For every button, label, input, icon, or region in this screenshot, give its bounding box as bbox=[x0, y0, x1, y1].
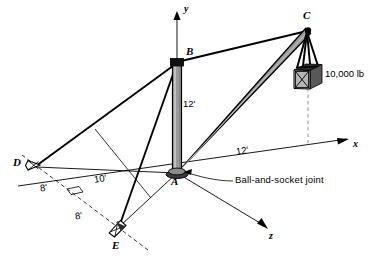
figure-canvas: D A B C E y x z 12' 12' 10' 8' 8' Ball-a… bbox=[0, 0, 372, 269]
load-magnitude-label: 10,000 lb bbox=[325, 69, 364, 79]
member-cable-BE bbox=[119, 63, 177, 227]
dimension-label-10ft: 10' bbox=[93, 173, 107, 184]
ball-and-socket-joint-label: Ball-and-socket joint bbox=[235, 175, 324, 185]
z-axis-arrowhead bbox=[257, 218, 268, 229]
y-axis-arrowhead bbox=[173, 11, 180, 20]
diagram-svg bbox=[0, 0, 372, 269]
dimension-label-D-offset: 8' bbox=[39, 183, 47, 193]
axis-label-z: z bbox=[269, 231, 273, 241]
joint-callout-leader bbox=[186, 173, 233, 182]
point-label-C: C bbox=[303, 10, 310, 21]
point-label-D: D bbox=[13, 157, 21, 168]
joint-B-block bbox=[171, 59, 184, 67]
dimension-label-mast-height: 12' bbox=[183, 99, 195, 109]
axis-label-y: y bbox=[184, 4, 188, 14]
dimension-label-E-offset: 8' bbox=[74, 211, 82, 221]
point-label-B: B bbox=[186, 46, 193, 57]
dimension-label-boom-run: 12' bbox=[235, 145, 249, 156]
point-label-A: A bbox=[171, 176, 178, 187]
x-axis-arrowhead bbox=[337, 138, 349, 145]
member-mast-AB bbox=[173, 62, 182, 174]
support-D-anchor bbox=[26, 161, 41, 171]
suspended-crate bbox=[294, 64, 322, 89]
member-cable-AD bbox=[36, 167, 177, 173]
ground-reference-line bbox=[95, 129, 151, 198]
point-label-E: E bbox=[112, 240, 119, 251]
member-cable-BD bbox=[36, 63, 177, 166]
axis-label-x: x bbox=[353, 139, 358, 149]
